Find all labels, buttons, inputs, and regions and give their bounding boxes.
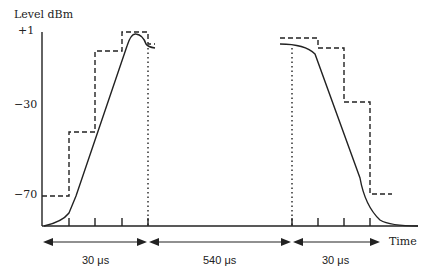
- y-label-plus1: +1: [18, 24, 34, 37]
- x-axis-title: Time: [389, 235, 417, 248]
- burst-power-time-mask-diagram: [0, 0, 446, 278]
- rising-mask: [42, 32, 155, 196]
- y-axis-title: Level dBm: [14, 8, 73, 21]
- duration-ramp-down: 30 μs: [322, 254, 349, 266]
- duration-burst: 540 μs: [203, 254, 236, 266]
- y-label-minus70: −70: [14, 188, 37, 201]
- y-label-minus30: −30: [14, 98, 37, 111]
- rising-power-curve: [44, 34, 155, 226]
- falling-mask: [280, 38, 392, 194]
- falling-power-curve: [280, 44, 418, 226]
- time-ticks: [69, 218, 370, 226]
- duration-ramp-up: 30 μs: [82, 254, 109, 266]
